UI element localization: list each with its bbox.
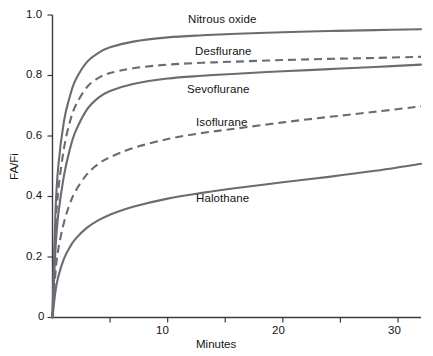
curve-halothane bbox=[53, 164, 422, 318]
series-curves bbox=[53, 29, 422, 317]
y-tick-label: 0.2 bbox=[26, 250, 42, 262]
y-tick-label: 0.4 bbox=[26, 189, 42, 201]
curve-isoflurane bbox=[53, 106, 422, 317]
axes bbox=[53, 15, 422, 318]
y-axis-ticks bbox=[48, 15, 53, 318]
curve-label-halothane: Halothane bbox=[196, 192, 249, 204]
curve-label-isoflurane: Isoflurane bbox=[196, 116, 248, 128]
y-tick-label: 1.0 bbox=[26, 8, 42, 20]
anesthetic-washin-chart: 1.0 0.8 0.6 0.4 0.2 0 10 20 30 Minutes F… bbox=[0, 0, 433, 356]
x-tick-label: 20 bbox=[272, 324, 285, 336]
curve-nitrous-oxide bbox=[53, 29, 422, 317]
y-axis-title: FA/Fi bbox=[8, 153, 20, 180]
y-tick-label: 0.6 bbox=[26, 129, 42, 141]
x-axis-title: Minutes bbox=[196, 338, 236, 350]
curve-label-desflurane: Desflurane bbox=[195, 45, 252, 57]
y-tick-label: 0.8 bbox=[26, 68, 42, 80]
curve-label-sevoflurane: Sevoflurane bbox=[187, 83, 249, 95]
curve-label-nitrous-oxide: Nitrous oxide bbox=[188, 13, 256, 25]
x-tick-label: 10 bbox=[156, 324, 169, 336]
x-axis-ticks bbox=[110, 318, 398, 323]
x-tick-label: 30 bbox=[388, 324, 401, 336]
y-tick-label: 0 bbox=[38, 310, 45, 322]
